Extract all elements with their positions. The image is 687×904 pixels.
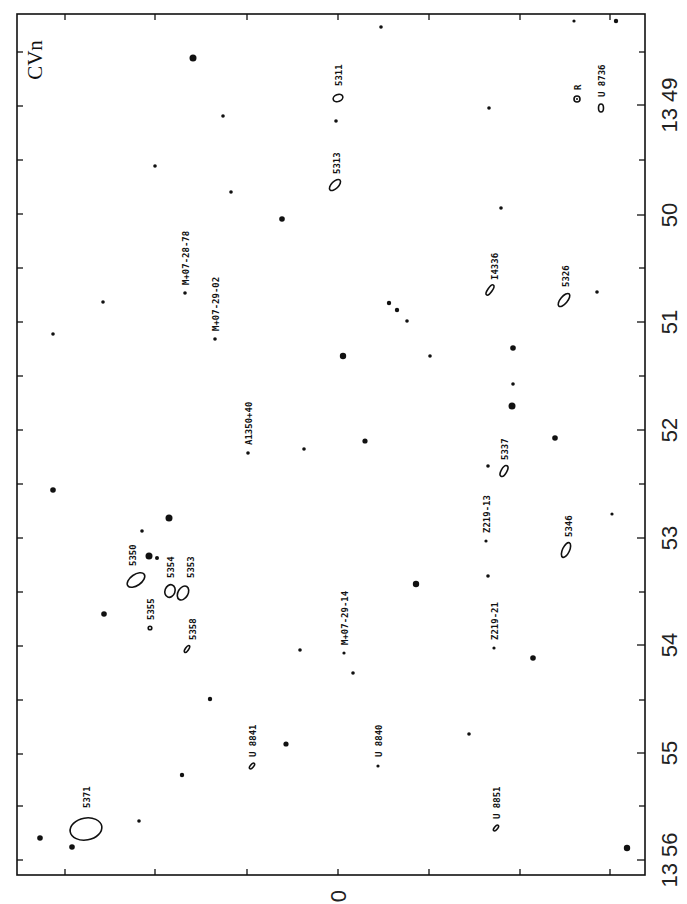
galaxy-ellipse-icon bbox=[183, 645, 190, 653]
ra-tick-label: 13 49 bbox=[657, 77, 682, 132]
galaxy-ellipse-icon bbox=[599, 104, 604, 112]
declination-zero-label: 0 bbox=[326, 890, 351, 902]
ra-tick-label: 50 bbox=[657, 203, 682, 227]
galaxy-label: Z219-13 bbox=[482, 495, 492, 533]
galaxy-marker: 5326 bbox=[556, 265, 572, 308]
galaxy-marker: Z219-21 bbox=[490, 602, 500, 650]
star-dot bbox=[486, 574, 490, 578]
galaxy-ellipse-icon bbox=[493, 824, 500, 831]
galaxy-point-icon bbox=[492, 646, 495, 649]
ra-axis-labels: 13 4950515253545513 56 bbox=[657, 77, 682, 887]
galaxy-ellipse-icon bbox=[68, 815, 103, 842]
star-dot bbox=[302, 447, 306, 451]
galaxy-marker: U 8841 bbox=[248, 724, 258, 769]
star-dot bbox=[37, 835, 43, 841]
star-dot bbox=[379, 25, 383, 29]
galaxy-label: 5311 bbox=[334, 64, 344, 86]
finder-chart: 13 4950515253545513 56 0 CVn 53115313RU … bbox=[0, 0, 687, 904]
star-dot bbox=[552, 435, 558, 441]
ra-tick-label: 13 56 bbox=[657, 832, 682, 887]
star-dot bbox=[486, 464, 490, 468]
star-dot bbox=[101, 611, 107, 617]
galaxy-ellipse-icon bbox=[332, 93, 344, 103]
galaxy-point-icon bbox=[376, 764, 379, 767]
galaxy-label: 5353 bbox=[186, 556, 196, 578]
star-dot bbox=[530, 655, 536, 661]
ra-tick-label: 53 bbox=[657, 526, 682, 550]
star-dot bbox=[221, 114, 225, 118]
star-dot bbox=[298, 648, 302, 652]
star-dot bbox=[69, 844, 75, 850]
star-dot bbox=[334, 119, 338, 123]
star-dot bbox=[190, 55, 197, 62]
galaxy-ellipse-icon bbox=[249, 762, 256, 769]
galaxy-label: 5350 bbox=[128, 544, 138, 566]
galaxy-point-icon bbox=[342, 651, 345, 654]
star-dot bbox=[405, 319, 409, 323]
star-dot bbox=[395, 308, 399, 312]
star-dot bbox=[413, 581, 419, 587]
galaxy-label: 5354 bbox=[166, 556, 176, 578]
galaxy-label: 5326 bbox=[561, 265, 571, 287]
constellation-label: CVn bbox=[23, 40, 47, 80]
star-dot bbox=[467, 732, 471, 736]
star-dot bbox=[140, 529, 144, 533]
galaxy-marker: M+07-29-14 bbox=[340, 590, 350, 654]
galaxy-label: M+07-28-78 bbox=[181, 231, 191, 285]
star-dot bbox=[166, 515, 173, 522]
galaxy-point-icon bbox=[484, 539, 487, 542]
galaxy-marker: U 8840 bbox=[374, 724, 384, 767]
axis-ticks bbox=[17, 14, 645, 875]
galaxy-marker: U 8736 bbox=[597, 64, 607, 112]
star-dot bbox=[595, 290, 599, 294]
galaxy-label: I4336 bbox=[490, 253, 500, 280]
star-dot bbox=[137, 819, 141, 823]
star-dot bbox=[351, 671, 355, 675]
galaxy-label: M+07-29-14 bbox=[340, 590, 350, 645]
chart-frame bbox=[17, 14, 645, 875]
ra-tick-label: 51 bbox=[657, 310, 682, 334]
star-dot bbox=[279, 216, 285, 222]
galaxy-label: U 8851 bbox=[492, 786, 502, 819]
galaxy-marker: I4336 bbox=[485, 253, 500, 296]
star-dot bbox=[101, 300, 105, 304]
galaxy-small-ring-icon bbox=[148, 626, 152, 630]
star-dot bbox=[180, 773, 184, 777]
galaxy-marker: M+07-29-02 bbox=[211, 277, 221, 341]
galaxy-point-icon bbox=[246, 451, 250, 455]
galaxy-marker: 5311 bbox=[332, 64, 344, 103]
galaxy-marker: 5358 bbox=[183, 618, 198, 653]
galaxy-ellipse-icon bbox=[499, 464, 510, 477]
galaxy-marker: 5355 bbox=[146, 598, 156, 629]
galaxy-ellipse-icon bbox=[328, 178, 343, 193]
star-dot bbox=[614, 19, 618, 23]
star-dot bbox=[572, 19, 575, 22]
galaxy-ellipse-icon bbox=[556, 292, 572, 309]
galaxy-label: 5358 bbox=[188, 618, 198, 640]
galaxy-label: M+07-29-02 bbox=[211, 277, 221, 331]
galaxy-label: A1350+40 bbox=[244, 402, 254, 445]
star-dot bbox=[153, 164, 157, 168]
star-field bbox=[37, 19, 630, 851]
star-dot bbox=[283, 741, 288, 746]
star-dot bbox=[510, 345, 516, 351]
galaxy-marker: U 8851 bbox=[492, 786, 502, 831]
galaxy-marker: 5353 bbox=[175, 556, 196, 602]
galaxy-ellipse-icon bbox=[485, 284, 495, 296]
galaxy-ellipse-icon bbox=[175, 584, 191, 602]
galaxy-marker: A1350+40 bbox=[244, 402, 254, 455]
ra-tick-label: 54 bbox=[657, 633, 682, 657]
star-dot bbox=[509, 403, 516, 410]
star-dot bbox=[340, 353, 346, 359]
galaxy-ellipse-icon bbox=[163, 583, 177, 599]
galaxy-ellipse-icon bbox=[559, 541, 572, 558]
galaxy-label: 5313 bbox=[332, 152, 342, 174]
galaxy-marker: 5350 bbox=[125, 544, 148, 590]
star-dot bbox=[387, 301, 391, 305]
galaxy-marker: 5337 bbox=[499, 438, 510, 477]
galaxy-label: U 8736 bbox=[597, 64, 607, 97]
galaxy-marker: 5313 bbox=[328, 152, 343, 192]
ra-tick-label: 55 bbox=[657, 741, 682, 765]
galaxy-label: Z219-21 bbox=[490, 602, 500, 640]
galaxy-marker: 5371 bbox=[68, 786, 103, 842]
